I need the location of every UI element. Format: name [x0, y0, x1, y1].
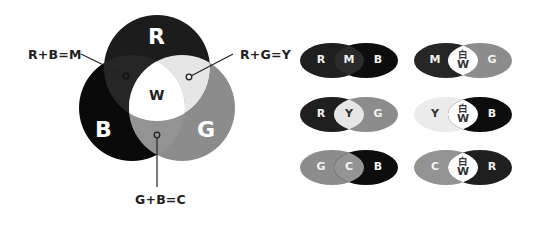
callout-dot-y: [186, 74, 192, 80]
color-mix-pill-5: G C B: [300, 150, 398, 185]
pill-left-label: Y: [424, 108, 446, 120]
pill-left-label: R: [310, 108, 332, 120]
pill-mid-label: 白W: [452, 104, 474, 124]
circle-label-r: R: [148, 24, 165, 49]
pill-left-label: M: [424, 54, 446, 66]
pill-right-label: B: [367, 54, 389, 66]
pill-left-label: C: [424, 161, 446, 173]
color-mix-pill-3: R Y G: [300, 97, 398, 132]
pill-left-label: R: [310, 54, 332, 66]
pill-mid-letter: W: [452, 114, 474, 124]
pill-mid-label: M: [338, 54, 360, 66]
color-mix-pill-4: Y 白W B: [414, 97, 512, 132]
circle-label-g: G: [197, 117, 215, 142]
pill-mid-label: 白W: [452, 157, 474, 177]
pill-mid-letter: W: [452, 60, 474, 70]
pill-right-label: B: [367, 161, 389, 173]
pill-mid-label: C: [338, 161, 360, 173]
pill-right-label: B: [481, 108, 503, 120]
color-mix-pill-2: M 白W G: [414, 43, 512, 78]
pill-right-label: R: [481, 161, 503, 173]
callout-dot-c: [154, 132, 160, 138]
center-label-w: W: [149, 87, 165, 103]
pill-mid-label: 白W: [452, 50, 474, 70]
pill-right-label: G: [481, 54, 503, 66]
pill-mid-letter: W: [452, 167, 474, 177]
pill-left-label: G: [310, 161, 332, 173]
callout-label-rb: R+B=M: [28, 47, 82, 62]
pill-mid-label: Y: [338, 108, 360, 120]
color-mix-pill-1: R M B: [300, 43, 398, 78]
callout-label-gb: G+B=C: [135, 192, 186, 207]
circle-label-b: B: [95, 117, 112, 142]
callout-label-rg: R+G=Y: [240, 47, 291, 62]
pill-right-label: G: [367, 108, 389, 120]
color-mix-pill-6: C 白W R: [414, 150, 512, 185]
